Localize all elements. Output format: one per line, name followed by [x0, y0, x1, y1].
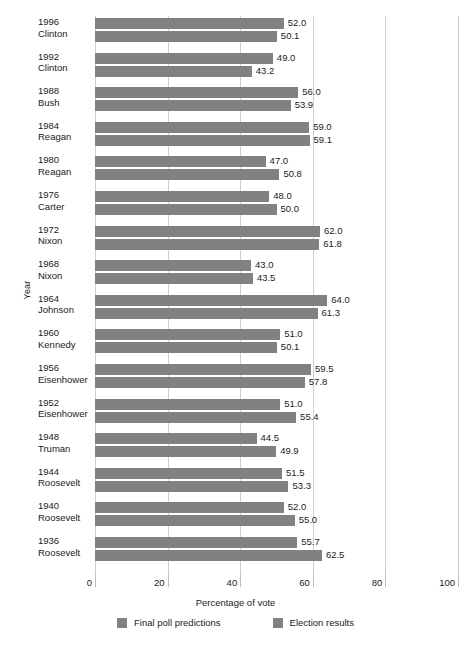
- bar-group: 55.762.5: [95, 535, 458, 563]
- bar-group: 48.050.0: [95, 189, 458, 217]
- category-person: Roosevelt: [38, 512, 90, 524]
- category-label-1976: 1976Carter: [38, 189, 90, 212]
- bar-value-label: 53.9: [291, 99, 314, 110]
- gridline-100: [458, 16, 459, 574]
- category-year: 1972: [38, 224, 90, 236]
- legend-item-election-results: Election results: [273, 617, 354, 628]
- bar-value-label: 50.1: [277, 341, 300, 352]
- bar-election-results: [95, 273, 253, 284]
- bar-chart: Year 52.050.149.043.256.053.959.059.147.…: [0, 0, 471, 651]
- bar-value-label: 51.5: [282, 467, 305, 478]
- tick-label: 0: [87, 577, 92, 588]
- bar-value-label: 44.5: [257, 432, 280, 443]
- category-year: 1940: [38, 500, 90, 512]
- bar-value-label: 55.7: [297, 536, 320, 547]
- category-person: Reagan: [38, 131, 90, 143]
- bar-final-poll-predictions: [95, 122, 309, 133]
- bar-value-label: 57.8: [305, 376, 328, 387]
- tick-mark: [385, 574, 386, 587]
- bar-value-label: 52.0: [284, 501, 307, 512]
- bar-value-label: 53.3: [288, 480, 311, 491]
- bar-final-poll-predictions: [95, 226, 320, 237]
- bar-value-label: 62.5: [322, 549, 345, 560]
- category-person: Johnson: [38, 304, 90, 316]
- category-person: Nixon: [38, 270, 90, 282]
- category-label-1956: 1956Eisenhower: [38, 362, 90, 385]
- category-year: 1960: [38, 327, 90, 339]
- bar-value-label: 43.5: [253, 272, 276, 283]
- bar-election-results: [95, 377, 305, 388]
- bar-election-results: [95, 308, 318, 319]
- category-person: Reagan: [38, 166, 90, 178]
- bar-value-label: 59.5: [311, 363, 334, 374]
- plot-area: 52.050.149.043.256.053.959.059.147.050.8…: [95, 16, 458, 574]
- category-year: 1992: [38, 51, 90, 63]
- category-label-1984: 1984Reagan: [38, 120, 90, 143]
- legend-label: Final poll predictions: [134, 617, 221, 628]
- category-label-1960: 1960Kennedy: [38, 327, 90, 350]
- bar-final-poll-predictions: [95, 468, 282, 479]
- bar-election-results: [95, 100, 291, 111]
- category-year: 1976: [38, 189, 90, 201]
- bar-value-label: 52.0: [284, 17, 307, 28]
- bar-final-poll-predictions: [95, 502, 284, 513]
- bar-value-label: 43.2: [252, 65, 275, 76]
- bar-election-results: [95, 481, 288, 492]
- category-year: 1980: [38, 154, 90, 166]
- bar-value-label: 55.0: [295, 514, 318, 525]
- tick-label: 40: [227, 577, 238, 588]
- bar-final-poll-predictions: [95, 329, 280, 340]
- bar-value-label: 59.1: [310, 134, 333, 145]
- bar-group: 56.053.9: [95, 85, 458, 113]
- bar-group: 59.059.1: [95, 120, 458, 148]
- bar-final-poll-predictions: [95, 364, 311, 375]
- bar-group: 44.549.9: [95, 431, 458, 459]
- category-person: Nixon: [38, 235, 90, 247]
- bar-group: 49.043.2: [95, 51, 458, 79]
- bar-group: 51.055.4: [95, 397, 458, 425]
- legend-swatch-icon: [273, 618, 283, 628]
- bar-group: 52.050.1: [95, 16, 458, 44]
- tick-label: 80: [372, 577, 383, 588]
- bar-final-poll-predictions: [95, 87, 298, 98]
- bar-election-results: [95, 342, 277, 353]
- bar-final-poll-predictions: [95, 18, 284, 29]
- bar-election-results: [95, 204, 277, 215]
- category-label-1988: 1988Bush: [38, 85, 90, 108]
- category-person: Eisenhower: [38, 374, 90, 386]
- category-person: Clinton: [38, 62, 90, 74]
- category-person: Roosevelt: [38, 477, 90, 489]
- bar-value-label: 49.9: [276, 445, 299, 456]
- bar-value-label: 49.0: [273, 52, 296, 63]
- category-year: 1996: [38, 16, 90, 28]
- bar-value-label: 64.0: [327, 294, 350, 305]
- bar-group: 52.055.0: [95, 500, 458, 528]
- bar-final-poll-predictions: [95, 191, 269, 202]
- x-axis-ticks: 020406080100: [95, 574, 458, 594]
- bar-group: 43.043.5: [95, 258, 458, 286]
- legend-item-final-poll-predictions: Final poll predictions: [117, 617, 221, 628]
- category-label-1972: 1972Nixon: [38, 224, 90, 247]
- bar-election-results: [95, 66, 252, 77]
- bar-value-label: 51.0: [280, 328, 303, 339]
- category-label-1948: 1948Truman: [38, 431, 90, 454]
- bar-election-results: [95, 135, 310, 146]
- bar-group: 47.050.8: [95, 154, 458, 182]
- tick-label: 100: [439, 577, 455, 588]
- category-year: 1988: [38, 85, 90, 97]
- bar-election-results: [95, 31, 277, 42]
- tick-label: 60: [299, 577, 310, 588]
- bar-election-results: [95, 550, 322, 561]
- category-year: 1968: [38, 258, 90, 270]
- bar-election-results: [95, 515, 295, 526]
- category-label-1944: 1944Roosevelt: [38, 466, 90, 489]
- bar-final-poll-predictions: [95, 433, 257, 444]
- legend-label: Election results: [290, 617, 354, 628]
- category-label-1936: 1936Roosevelt: [38, 535, 90, 558]
- bar-final-poll-predictions: [95, 537, 297, 548]
- bar-election-results: [95, 169, 279, 180]
- category-person: Eisenhower: [38, 408, 90, 420]
- bar-group: 64.061.3: [95, 293, 458, 321]
- bar-value-label: 48.0: [269, 190, 292, 201]
- category-year: 1948: [38, 431, 90, 443]
